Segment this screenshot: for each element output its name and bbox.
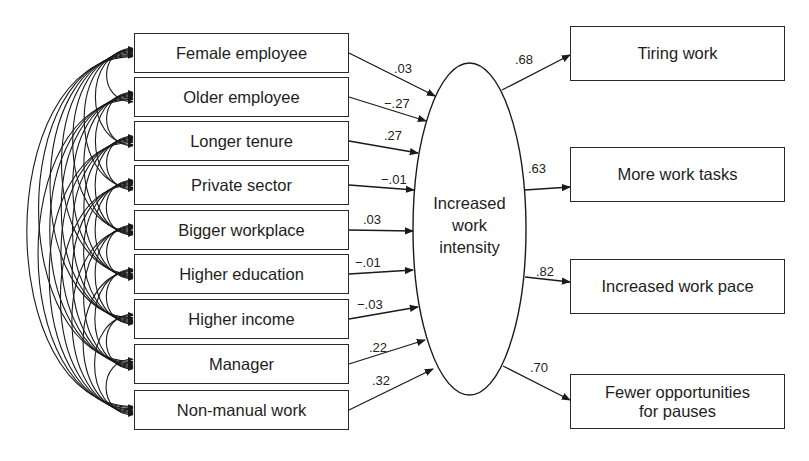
predictor-box-higher-education: Higher education bbox=[134, 254, 349, 294]
latent-label-line: intensity bbox=[413, 236, 526, 258]
latent-label-line: work bbox=[413, 214, 526, 236]
loading-increased-work-pace: .82 bbox=[536, 264, 554, 279]
predictor-box-female-employee: Female employee bbox=[134, 33, 349, 73]
predictor-label: Higher income bbox=[188, 310, 294, 329]
indicator-box-more-work-tasks: More work tasks bbox=[570, 147, 785, 202]
indicator-label-line: for pauses bbox=[639, 402, 716, 421]
loading-more-work-tasks: .63 bbox=[528, 161, 546, 176]
predictor-label: Longer tenure bbox=[190, 132, 293, 151]
predictor-label: Female employee bbox=[176, 44, 307, 63]
loading-fewer-opportunities: .70 bbox=[530, 360, 548, 375]
correlation-arcs bbox=[27, 48, 133, 415]
loading-tiring-work: .68 bbox=[515, 52, 533, 67]
coef-private-sector: −.01 bbox=[381, 172, 407, 187]
predictor-box-bigger-workplace: Bigger workplace bbox=[134, 210, 349, 250]
coef-higher-income: −.03 bbox=[357, 297, 383, 312]
coef-higher-education: −.01 bbox=[355, 255, 381, 270]
predictor-box-non-manual-work: Non-manual work bbox=[134, 390, 349, 430]
predictor-label: Manager bbox=[209, 355, 274, 374]
indicator-label: Increased work pace bbox=[601, 277, 753, 296]
predictor-label: Non-manual work bbox=[177, 401, 306, 420]
latent-label-line: Increased bbox=[413, 192, 526, 214]
coef-bigger-workplace: .03 bbox=[363, 212, 381, 227]
latent-variable-label: Increased work intensity bbox=[413, 192, 526, 258]
predictor-box-private-sector: Private sector bbox=[134, 165, 349, 205]
predictor-box-manager: Manager bbox=[134, 344, 349, 384]
indicator-box-fewer-opportunities-for-pauses: Fewer opportunities for pauses bbox=[570, 374, 785, 429]
predictor-box-higher-income: Higher income bbox=[134, 299, 349, 339]
indicator-box-increased-work-pace: Increased work pace bbox=[570, 259, 785, 314]
indicator-label: Tiring work bbox=[637, 44, 717, 63]
predictor-box-older-employee: Older employee bbox=[134, 77, 349, 117]
coef-longer-tenure: .27 bbox=[384, 128, 402, 143]
predictor-label: Private sector bbox=[191, 176, 292, 195]
coef-female-employee: .03 bbox=[394, 61, 412, 76]
coef-manager: .22 bbox=[369, 340, 387, 355]
coef-older-employee: −.27 bbox=[384, 96, 410, 111]
path-diagram: Female employee Older employee Longer te… bbox=[0, 0, 809, 461]
predictor-label: Bigger workplace bbox=[178, 221, 305, 240]
predictor-label: Older employee bbox=[183, 88, 299, 107]
indicator-label-line: Fewer opportunities bbox=[605, 383, 750, 402]
indicator-box-tiring-work: Tiring work bbox=[570, 26, 785, 81]
predictor-label: Higher education bbox=[179, 265, 304, 284]
indicator-label: More work tasks bbox=[617, 165, 737, 184]
predictor-box-longer-tenure: Longer tenure bbox=[134, 121, 349, 161]
coef-non-manual-work: .32 bbox=[372, 373, 390, 388]
